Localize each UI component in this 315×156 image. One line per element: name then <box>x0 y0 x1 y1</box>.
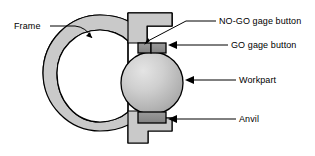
anvil-leader-line <box>168 115 236 123</box>
label-nogo-gage-button: NO-GO gage button <box>219 16 301 26</box>
label-anvil: Anvil <box>239 114 259 124</box>
label-frame: Frame <box>14 21 41 31</box>
label-workpart: Workpart <box>239 75 276 85</box>
label-go-gage-button: GO gage button <box>231 40 296 50</box>
frame-top-jaw <box>128 13 172 43</box>
workpart-sphere <box>121 52 183 114</box>
go-gage-button-leader-line <box>168 41 228 49</box>
go-gage-button-block <box>151 43 166 53</box>
diagram-canvas: Frame NO-GO gage button GO gage button W… <box>0 0 315 156</box>
workpart-leader-line <box>185 76 236 84</box>
anvil-block <box>138 112 166 123</box>
